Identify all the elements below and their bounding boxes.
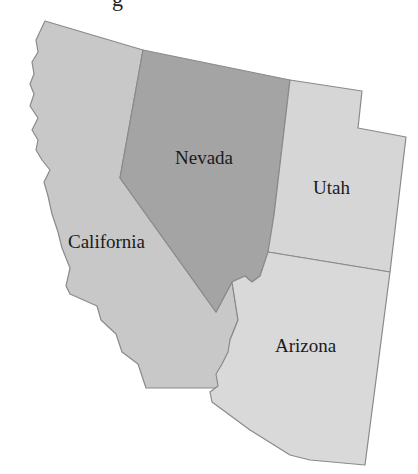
state-arizona (210, 252, 390, 465)
label-nevada: Nevada (175, 147, 234, 168)
label-utah: Utah (313, 177, 350, 198)
state-utah (268, 80, 406, 272)
label-california: California (68, 231, 146, 252)
label-arizona: Arizona (275, 335, 337, 356)
southwest-states-map: Nevada California Utah Arizona (0, 0, 418, 474)
